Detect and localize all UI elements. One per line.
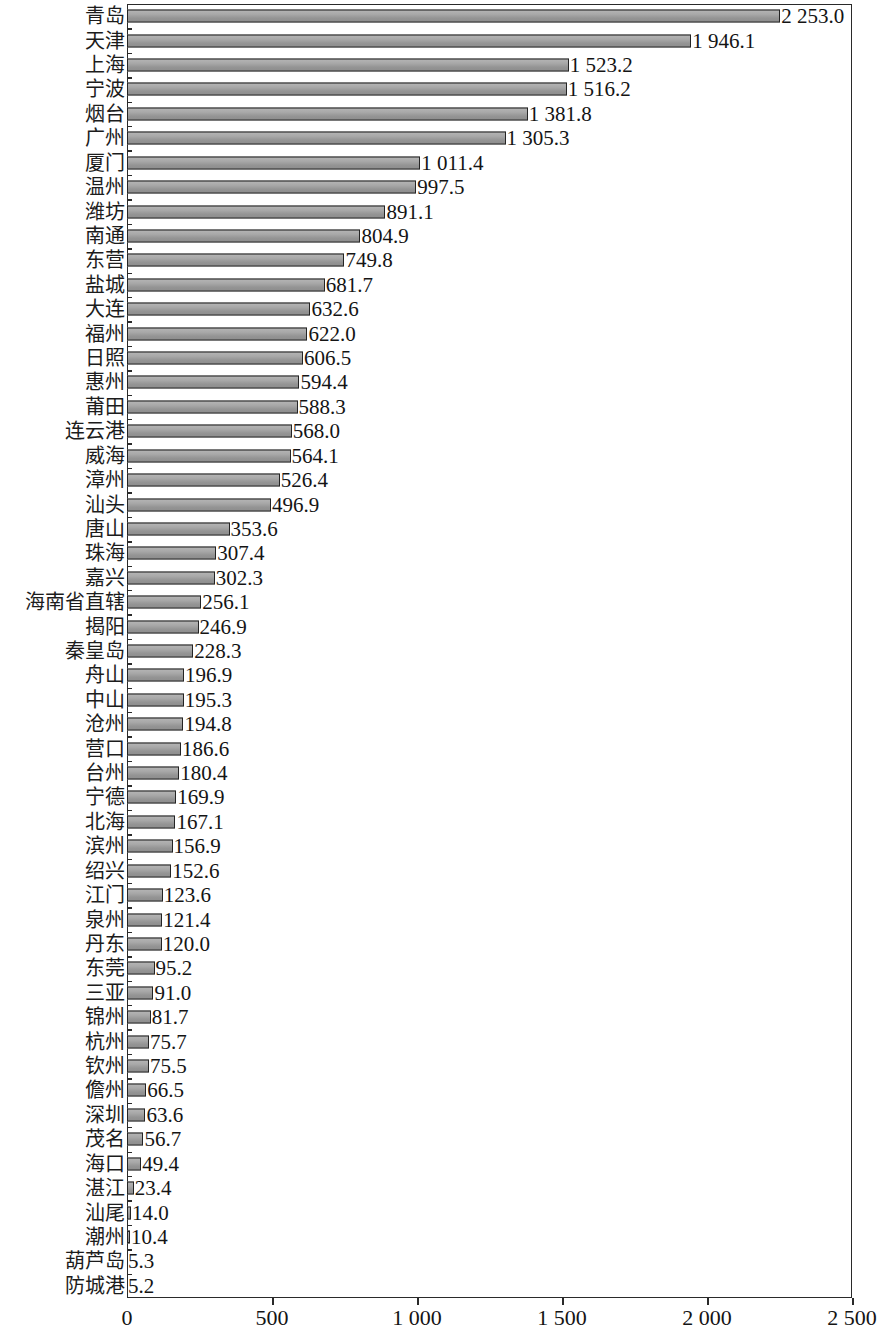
bar-row: 东莞95.2 bbox=[0, 956, 871, 980]
category-label: 唐山 bbox=[85, 519, 125, 539]
bar bbox=[127, 986, 153, 999]
bar bbox=[127, 327, 307, 340]
bar bbox=[127, 303, 310, 316]
bar-and-value: 588.3 bbox=[127, 400, 346, 413]
value-label: 186.6 bbox=[182, 738, 229, 759]
bar bbox=[127, 864, 171, 877]
bar bbox=[127, 620, 199, 633]
bar-row: 沧州194.8 bbox=[0, 712, 871, 736]
bar-and-value: 1 381.8 bbox=[127, 107, 592, 120]
bar-row: 汕尾14.0 bbox=[0, 1200, 871, 1224]
value-label: 307.4 bbox=[217, 543, 264, 564]
category-label: 沧州 bbox=[85, 714, 125, 734]
bar-and-value: 5.2 bbox=[127, 1279, 154, 1292]
bar bbox=[127, 83, 567, 96]
bar-rows-container: 青岛2 253.0天津1 946.1上海1 523.2宁波1 516.2烟台1 … bbox=[0, 4, 871, 1298]
bar-and-value: 95.2 bbox=[127, 962, 192, 975]
bar bbox=[127, 10, 780, 23]
bar-row: 葫芦岛5.3 bbox=[0, 1249, 871, 1273]
bar-and-value: 1 516.2 bbox=[127, 83, 631, 96]
category-label: 南通 bbox=[85, 226, 125, 246]
bar bbox=[127, 425, 292, 438]
category-label: 儋州 bbox=[85, 1080, 125, 1100]
category-label: 盐城 bbox=[85, 275, 125, 295]
bar-row: 惠州594.4 bbox=[0, 370, 871, 394]
bar-and-value: 246.9 bbox=[127, 620, 247, 633]
bar-and-value: 228.3 bbox=[127, 644, 241, 657]
bar-row: 儋州66.5 bbox=[0, 1078, 871, 1102]
value-label: 1 381.8 bbox=[529, 103, 592, 124]
bar-and-value: 1 946.1 bbox=[127, 34, 755, 47]
bar-and-value: 10.4 bbox=[127, 1230, 168, 1243]
value-label: 2 253.0 bbox=[781, 6, 844, 27]
bar-and-value: 564.1 bbox=[127, 449, 339, 462]
bar bbox=[127, 254, 344, 267]
bar bbox=[127, 400, 298, 413]
value-label: 91.0 bbox=[154, 982, 191, 1003]
value-label: 120.0 bbox=[163, 933, 210, 954]
bar bbox=[127, 1133, 143, 1146]
bar-and-value: 91.0 bbox=[127, 986, 191, 999]
category-label: 珠海 bbox=[85, 543, 125, 563]
bar-and-value: 81.7 bbox=[127, 1011, 188, 1024]
value-label: 1 011.4 bbox=[421, 152, 483, 173]
bar-and-value: 2 253.0 bbox=[127, 10, 844, 23]
bar-row: 莆田588.3 bbox=[0, 395, 871, 419]
bar-and-value: 120.0 bbox=[127, 937, 210, 950]
category-label: 上海 bbox=[85, 55, 125, 75]
value-label: 123.6 bbox=[164, 885, 211, 906]
bar-row: 烟台1 381.8 bbox=[0, 102, 871, 126]
category-label: 福州 bbox=[85, 324, 125, 344]
bar-and-value: 307.4 bbox=[127, 547, 264, 560]
value-label: 1 946.1 bbox=[692, 30, 755, 51]
bar-row: 杭州75.7 bbox=[0, 1029, 871, 1053]
bar bbox=[127, 156, 420, 169]
category-label: 深圳 bbox=[85, 1105, 125, 1125]
category-label: 天津 bbox=[85, 31, 125, 51]
bar-row: 舟山196.9 bbox=[0, 663, 871, 687]
bar-and-value: 63.6 bbox=[127, 1108, 183, 1121]
value-label: 5.3 bbox=[128, 1251, 154, 1272]
value-label: 49.4 bbox=[142, 1153, 179, 1174]
bar bbox=[127, 449, 291, 462]
category-label: 杭州 bbox=[85, 1032, 125, 1052]
bar-and-value: 123.6 bbox=[127, 889, 211, 902]
value-label: 228.3 bbox=[194, 640, 241, 661]
value-label: 75.5 bbox=[150, 1056, 187, 1077]
category-label: 日照 bbox=[85, 348, 125, 368]
bar-and-value: 75.5 bbox=[127, 1060, 187, 1073]
bar bbox=[127, 474, 280, 487]
bar-row: 深圳63.6 bbox=[0, 1103, 871, 1127]
value-label: 167.1 bbox=[176, 811, 223, 832]
x-tick-label: 1 500 bbox=[537, 1306, 587, 1330]
bar-row: 营口186.6 bbox=[0, 736, 871, 760]
category-label: 潍坊 bbox=[85, 202, 125, 222]
value-label: 23.4 bbox=[135, 1178, 172, 1199]
category-label: 海口 bbox=[85, 1154, 125, 1174]
bar-row: 盐城681.7 bbox=[0, 273, 871, 297]
bar-and-value: 195.3 bbox=[127, 693, 232, 706]
bar-row: 东营749.8 bbox=[0, 248, 871, 272]
bar-and-value: 256.1 bbox=[127, 596, 250, 609]
bar-and-value: 606.5 bbox=[127, 352, 351, 365]
value-label: 56.7 bbox=[144, 1129, 181, 1150]
value-label: 152.6 bbox=[172, 860, 219, 881]
category-label: 莆田 bbox=[85, 397, 125, 417]
bar-row: 上海1 523.2 bbox=[0, 53, 871, 77]
bar-and-value: 49.4 bbox=[127, 1157, 179, 1170]
bar-row: 青岛2 253.0 bbox=[0, 4, 871, 28]
bar-row: 滨州156.9 bbox=[0, 834, 871, 858]
bar-row: 防城港5.2 bbox=[0, 1274, 871, 1298]
bar bbox=[127, 596, 201, 609]
value-label: 10.4 bbox=[131, 1226, 168, 1247]
category-label: 钦州 bbox=[85, 1056, 125, 1076]
bar-row: 秦皇岛228.3 bbox=[0, 639, 871, 663]
x-tick-label: 1 000 bbox=[392, 1306, 442, 1330]
bar-row: 温州997.5 bbox=[0, 175, 871, 199]
category-label: 中山 bbox=[85, 690, 125, 710]
bar-row: 嘉兴302.3 bbox=[0, 566, 871, 590]
bar bbox=[127, 791, 176, 804]
bar-row: 海口49.4 bbox=[0, 1152, 871, 1176]
bar bbox=[127, 669, 184, 682]
category-label: 广州 bbox=[85, 128, 125, 148]
